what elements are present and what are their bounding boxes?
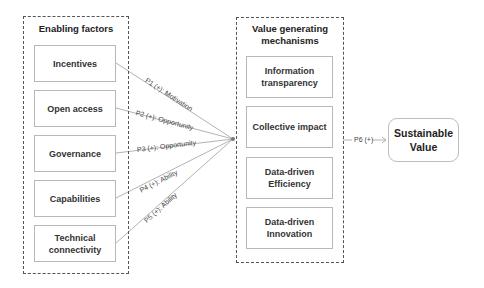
mechanism-label: Collective impact — [252, 121, 326, 133]
edge-p5 — [116, 139, 233, 243]
factor-label: Open access — [47, 103, 103, 115]
factor-label: Governance — [49, 148, 101, 160]
factor-capabilities[interactable]: Capabilities — [34, 180, 116, 217]
mechanism-data-driven-innovation[interactable]: Data-driven Innovation — [246, 207, 333, 249]
factor-governance[interactable]: Governance — [34, 135, 116, 172]
enabling-factors-title: Enabling factors — [24, 23, 128, 35]
factor-open-access[interactable]: Open access — [34, 90, 116, 127]
value-mechanisms-title: Value generating mechanisms — [237, 23, 343, 47]
factor-label: Technical connectivity — [47, 232, 103, 256]
factor-label: Incentives — [53, 58, 97, 70]
mechanism-label: Information transparency — [255, 65, 324, 89]
mechanism-label: Data-driven Innovation — [261, 216, 318, 240]
mechanism-collective-impact[interactable]: Collective impact — [246, 106, 333, 148]
factor-label: Capabilities — [50, 193, 101, 205]
mechanism-label: Data-driven Efficiency — [261, 166, 318, 190]
outcome-label: Sustainable Value — [394, 126, 453, 154]
edge-label-p6: P6 (+) — [354, 136, 373, 143]
factor-technical-connectivity[interactable]: Technical connectivity — [34, 225, 116, 262]
convergence-point — [231, 137, 235, 141]
mechanism-information-transparency[interactable]: Information transparency — [246, 56, 333, 98]
outcome-sustainable-value[interactable]: Sustainable Value — [388, 118, 459, 162]
mechanism-data-driven-efficiency[interactable]: Data-driven Efficiency — [246, 157, 333, 199]
factor-incentives[interactable]: Incentives — [34, 45, 116, 82]
